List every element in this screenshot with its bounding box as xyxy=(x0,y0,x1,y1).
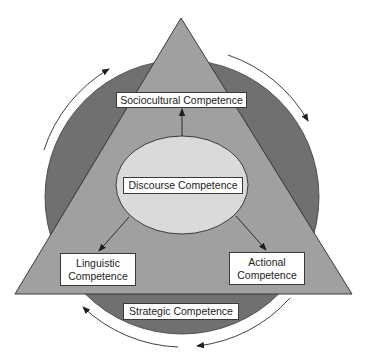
linguistic-competence-label: Linguistic Competence xyxy=(60,253,136,286)
actional-competence-label: Actional Competence xyxy=(229,252,305,285)
sociocultural-competence-text: Sociocultural Competence xyxy=(120,94,243,107)
actional-competence-text-line2: Competence xyxy=(237,269,297,282)
strategic-competence-label: Strategic Competence xyxy=(123,303,239,320)
actional-competence-text-line1: Actional xyxy=(248,256,285,269)
linguistic-competence-text-line1: Linguistic xyxy=(76,257,120,270)
discourse-competence-text: Discourse Competence xyxy=(128,179,237,192)
sociocultural-competence-label: Sociocultural Competence xyxy=(116,92,247,108)
discourse-competence-label: Discourse Competence xyxy=(123,177,243,194)
linguistic-competence-text-line2: Competence xyxy=(68,270,128,283)
strategic-competence-text: Strategic Competence xyxy=(129,305,233,318)
